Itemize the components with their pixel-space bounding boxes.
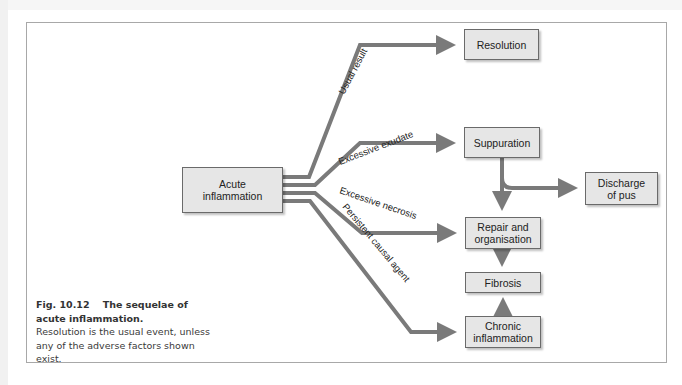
node-suppuration: Suppuration xyxy=(464,127,540,158)
node-chronic-inflammation: Chronic inflammation xyxy=(465,316,541,348)
node-repair-line1: Repair and xyxy=(477,221,528,233)
arrow-usual-result xyxy=(283,45,452,177)
node-acute-line2: inflammation xyxy=(203,190,263,202)
node-acute-line1: Acute xyxy=(219,178,246,190)
node-fibrosis: Fibrosis xyxy=(465,272,541,293)
node-discharge-line2: of pus xyxy=(607,189,636,201)
node-resolution-label: Resolution xyxy=(477,39,527,51)
node-discharge-line1: Discharge xyxy=(598,177,645,189)
node-discharge-of-pus: Discharge of pus xyxy=(585,172,658,205)
caption-title-line2: acute inflammation. xyxy=(36,312,211,326)
arrow-persistent-agent xyxy=(283,201,453,332)
node-repair-line2: organisation xyxy=(474,233,531,245)
node-chronic-line1: Chronic xyxy=(485,320,521,332)
label-usual-result: Usual result xyxy=(336,46,369,96)
figure-caption: Fig. 10.12 The sequelae of acute inflamm… xyxy=(36,298,211,366)
caption-title-line1: Fig. 10.12 The sequelae of xyxy=(36,298,211,312)
node-acute-inflammation: Acute inflammation xyxy=(182,167,283,213)
arrow-discharge xyxy=(502,178,574,188)
node-suppuration-label: Suppuration xyxy=(474,137,531,149)
caption-description: Resolution is the usual event, unless an… xyxy=(36,325,211,366)
label-excessive-exudate: Excessive exudate xyxy=(337,128,415,167)
node-repair-and-organisation: Repair and organisation xyxy=(465,217,541,249)
node-resolution: Resolution xyxy=(464,29,539,60)
node-fibrosis-label: Fibrosis xyxy=(485,277,522,289)
node-chronic-line2: inflammation xyxy=(473,332,533,344)
